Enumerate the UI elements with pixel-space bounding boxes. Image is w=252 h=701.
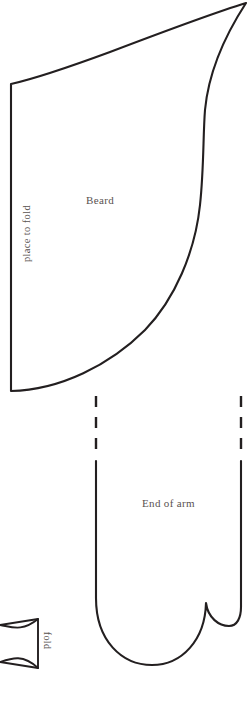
place-to-fold-label: place to fold	[21, 188, 32, 280]
arm-outline-path	[96, 461, 241, 665]
end-of-arm-label: End of arm	[96, 497, 241, 509]
fold-tab-concave-edge-path	[0, 619, 38, 668]
pattern-sheet: Beard place to fold End of arm fold	[0, 0, 252, 701]
fold-label: fold	[42, 621, 53, 661]
pattern-outlines	[0, 0, 252, 701]
